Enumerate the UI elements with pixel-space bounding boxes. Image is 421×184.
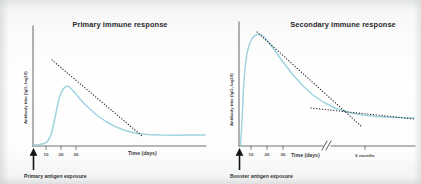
- chart-panel-primary: Primary immune response Antibody titer (…: [8, 0, 211, 184]
- secondary-chart-title: Secondary immune response: [290, 20, 396, 29]
- secondary-tick-label-30: 30: [281, 152, 286, 157]
- primary-chart-title: Primary immune response: [72, 20, 167, 29]
- secondary-tick-label-months: 6 months: [355, 153, 375, 158]
- primary-decay-trend-line: [52, 60, 142, 136]
- secondary-antibody-curve: [241, 34, 415, 145]
- primary-exposure-caption: Primary antigen exposure: [24, 173, 87, 179]
- secondary-shallow-trend-line: [311, 108, 414, 119]
- secondary-tick-label-20: 20: [265, 152, 270, 157]
- secondary-exposure-arrow: [236, 149, 243, 171]
- chart-panel-secondary: Secondary immune response Antibody titer…: [213, 0, 418, 184]
- primary-tick-label-20: 20: [59, 152, 64, 157]
- secondary-x-axis-label: Time (days): [291, 152, 320, 158]
- secondary-y-axis-label: Antibody titer (IgG, log10): [229, 73, 234, 126]
- secondary-response-plot: Secondary immune response Antibody titer…: [213, 0, 418, 184]
- secondary-exposure-caption: Booster antigen exposure: [230, 173, 293, 179]
- primary-response-plot: Primary immune response Antibody titer (…: [8, 0, 211, 184]
- primary-antibody-curve: [34, 86, 205, 145]
- primary-exposure-arrow: [30, 149, 37, 171]
- immune-response-figure: Primary immune response Antibody titer (…: [0, 0, 421, 184]
- secondary-tick-label-10: 10: [249, 152, 254, 157]
- primary-x-axis-label: Time (days): [128, 150, 157, 156]
- primary-y-axis-label: Antibody titer (IgG, log10): [23, 71, 28, 124]
- primary-tick-label-30: 30: [74, 152, 79, 157]
- primary-tick-label-10: 10: [44, 152, 49, 157]
